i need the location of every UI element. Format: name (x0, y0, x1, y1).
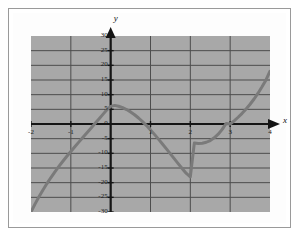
y-tick-label: -30 (91, 208, 108, 215)
x-tick-label: -1 (63, 129, 79, 136)
y-tick-label: -20 (91, 179, 108, 186)
y-tick-label: 0 (91, 120, 108, 127)
y-tick-label: 20 (91, 61, 108, 68)
y-tick-label: 15 (91, 76, 108, 83)
x-tick-label: 1 (143, 129, 159, 136)
y-axis-label: y (114, 14, 118, 23)
y-tick-label: 25 (91, 47, 108, 54)
x-tick-label: -2 (23, 129, 39, 136)
x-axis-label: x (283, 116, 287, 125)
y-tick-label: 10 (91, 91, 108, 98)
figure-root: -30-25-20-15-10-5051015202530-2-11234 y … (0, 0, 299, 236)
x-tick-label: 4 (262, 129, 278, 136)
plot-canvas (31, 36, 270, 212)
plot-area (31, 36, 270, 212)
x-tick-label: 3 (222, 129, 238, 136)
y-tick-label: -10 (91, 149, 108, 156)
x-tick-label: 2 (182, 129, 198, 136)
y-tick-label: -5 (91, 135, 108, 142)
y-tick-label: -25 (91, 193, 108, 200)
y-tick-label: 5 (91, 105, 108, 112)
y-tick-label: 30 (91, 32, 108, 39)
y-tick-label: -15 (91, 164, 108, 171)
